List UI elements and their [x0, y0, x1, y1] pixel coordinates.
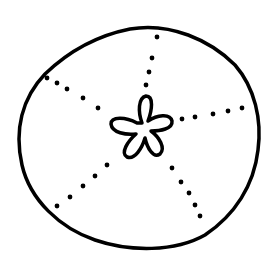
ray-right: [180, 106, 245, 122]
ray-left: [45, 76, 101, 111]
ray-bottom-left: [55, 163, 110, 209]
sand-dollar-illustration: [0, 0, 280, 261]
ray-bottom-right: [170, 166, 203, 219]
ray-top: [144, 35, 160, 88]
center-flower-icon: [111, 96, 172, 157]
